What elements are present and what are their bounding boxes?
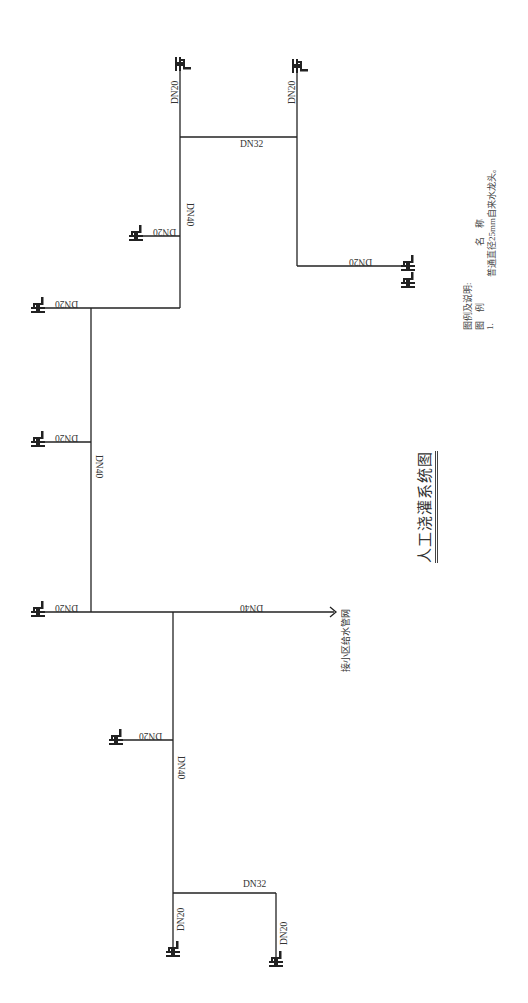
pipe-label: DN20	[153, 226, 176, 236]
pipe-label: DN32	[243, 880, 266, 890]
pipe-label: DN20	[177, 908, 187, 931]
inlet-label: 接小区给水管网	[342, 609, 351, 672]
pipe-label: DN20	[280, 922, 290, 945]
faucet-icon	[31, 601, 45, 617]
faucet-icons	[31, 57, 415, 967]
pipe-label: DN40	[185, 203, 195, 226]
faucet-icon	[175, 57, 191, 71]
pipe-label: DN20	[55, 432, 78, 442]
pipe-label: DN20	[171, 81, 181, 104]
pipe-label: DN40	[240, 602, 263, 612]
diagram-title: 人工浇灌系统图	[413, 451, 438, 563]
pipe-label: DN20	[55, 298, 78, 308]
faucet-icon	[129, 225, 143, 241]
pipe-label: DN20	[139, 730, 162, 740]
legend-item-desc: 普通直径25mm自来水龙头。	[485, 164, 498, 277]
legend-item-no: 1.	[485, 323, 495, 330]
pipe-network	[40, 68, 406, 960]
pipe-label: DN40	[94, 455, 104, 478]
irrigation-system-diagram	[0, 0, 528, 1003]
pipe-label: DN20	[288, 81, 298, 104]
faucet-icon	[31, 431, 45, 447]
pipe-label: DN32	[240, 140, 263, 150]
legend-faucet-icon	[401, 272, 415, 288]
pipe-label: DN40	[176, 756, 186, 779]
pipe-label: DN20	[349, 256, 372, 266]
faucet-icon	[292, 59, 308, 73]
faucet-icon	[31, 297, 45, 313]
pipe-label: DN20	[55, 602, 78, 612]
faucet-icon	[109, 729, 123, 745]
faucet-icon	[401, 255, 415, 271]
